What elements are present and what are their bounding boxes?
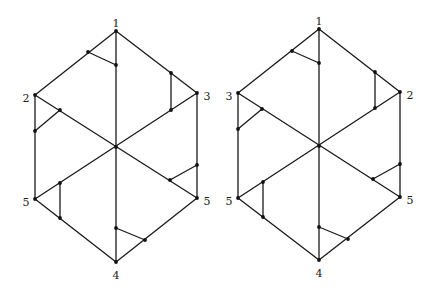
gadget-node [261,215,265,219]
hexagon-edge [319,197,400,260]
gadget-node [260,107,264,111]
gadget-node [371,177,375,181]
gadget-edge [116,228,145,240]
gadget-edge [319,227,348,239]
vertex-label-upper_right: 2 [407,89,414,102]
vertex-upper_right [195,91,199,95]
vertex-upper_left [236,91,240,95]
gadget-node [195,163,199,167]
gadget-node [114,226,118,230]
vertex-lower_right [195,196,199,200]
gadget-edge [292,51,319,63]
gadget-node [346,237,350,241]
gadget-node [86,50,90,54]
vertex-label-upper_left: 3 [226,90,233,103]
gadget-node [58,108,62,112]
gadget-node [317,225,321,229]
gadget-node [236,127,240,131]
gadget-node [317,61,321,65]
diagram-canvas: 123554 132554 [0,0,435,291]
vertex-bottom [114,260,118,264]
hexagon-edge [238,29,319,93]
gadget-node [33,129,37,133]
hexagon-edge [238,198,319,260]
center-node [114,145,118,149]
vertex-label-top: 1 [113,17,120,30]
hexagon-graph-right: 132554 [226,15,414,280]
gadget-node [290,49,294,53]
gadget-node [169,71,173,75]
vertex-label-lower_left: 5 [23,196,30,209]
gadget-node [261,180,265,184]
gadget-node [168,178,172,182]
vertex-label-bottom: 4 [113,269,120,282]
vertex-label-upper_left: 2 [23,92,30,105]
hexagon-edge [116,198,197,262]
vertex-upper_left [33,93,37,97]
gadget-edge [238,109,262,129]
gadget-edge [373,164,400,179]
vertex-label-bottom: 4 [316,267,323,280]
hexagon-edge [35,199,116,262]
gadget-node [169,108,173,112]
vertex-label-lower_right: 5 [407,194,414,207]
gadget-node [58,181,62,185]
vertex-lower_right [398,195,402,199]
vertex-label-top: 1 [316,15,323,28]
gadget-node [143,238,147,242]
hexagon-edge [35,31,116,95]
gadget-node [58,216,62,220]
hexagon-graph-left: 123554 [23,17,211,282]
vertex-upper_right [398,90,402,94]
gadget-edge [88,52,116,65]
vertex-bottom [317,258,321,262]
gadget-node [114,63,118,67]
vertex-label-lower_left: 5 [226,195,233,208]
gadget-node [373,106,377,110]
vertex-lower_left [236,196,240,200]
vertex-lower_left [33,197,37,201]
vertex-label-lower_right: 5 [204,195,211,208]
gadget-edge [170,165,197,180]
vertex-label-upper_right: 3 [204,90,211,103]
hexagon-edge [116,31,197,93]
center-node [317,144,321,148]
hexagon-edge [319,29,400,92]
gadget-edge [35,110,60,131]
gadget-node [398,162,402,166]
gadget-node [373,70,377,74]
